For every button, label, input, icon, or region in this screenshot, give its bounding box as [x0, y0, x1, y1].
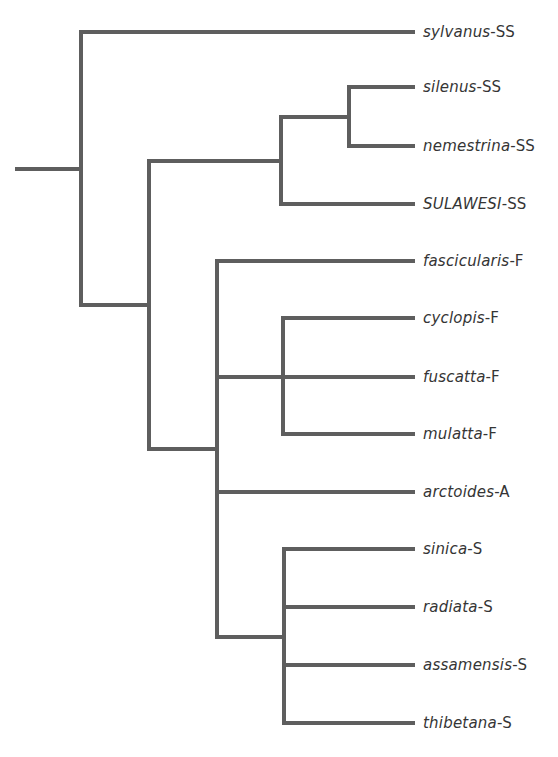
group-suffix: -F: [483, 425, 497, 443]
species-name: sinica: [423, 540, 467, 558]
ss-clade-node-vertical: [279, 115, 283, 206]
silenus-nemestrina-node-vertical: [347, 85, 351, 148]
species-name: assamensis: [423, 656, 512, 674]
branch-sinica: [282, 547, 415, 551]
group-suffix: -S: [478, 598, 493, 616]
group-suffix: -SS: [477, 78, 501, 96]
leaf-label-sinica: sinica-S: [423, 540, 482, 558]
phylogenetic-tree: sylvanus-SS silenus-SS nemestrina-SS SUL…: [0, 0, 558, 757]
species-name: fascicularis: [423, 252, 509, 270]
branch-silenus: [347, 85, 415, 89]
s-clade-node-vertical: [282, 547, 286, 725]
species-name: cyclopis: [423, 309, 485, 327]
group-suffix: -SS: [490, 23, 514, 41]
group-suffix: -F: [485, 309, 499, 327]
branch-sylvanus: [79, 30, 415, 34]
species-name: radiata: [423, 598, 478, 616]
branch-thibetana: [282, 721, 415, 725]
branch-fascicularis: [215, 259, 415, 263]
leaf-label-cyclopis: cyclopis-F: [423, 309, 499, 327]
group-suffix: -S: [497, 714, 512, 732]
species-name: mulatta: [423, 425, 483, 443]
group-suffix: -SS: [510, 137, 534, 155]
group-suffix: -F: [486, 368, 500, 386]
species-name: fuscatta: [423, 368, 486, 386]
branch-radiata: [282, 605, 415, 609]
branch-cyclopis: [281, 316, 415, 320]
branch-assamensis: [282, 663, 415, 667]
species-name: thibetana: [423, 714, 497, 732]
group-suffix: -A: [494, 483, 509, 501]
group-suffix: -S: [512, 656, 527, 674]
leaf-label-thibetana: thibetana-S: [423, 714, 512, 732]
branch-fuscatta: [215, 375, 415, 379]
leaf-label-radiata: radiata-S: [423, 598, 493, 616]
leaf-label-sulawesi: SULAWESI-SS: [423, 195, 526, 213]
branch-fas-clade: [147, 447, 219, 451]
group-suffix: -S: [467, 540, 482, 558]
leaf-label-sylvanus: sylvanus-SS: [423, 23, 515, 41]
branch-silenus-nemestrina: [279, 115, 351, 119]
root-stem: [15, 167, 83, 171]
ingroup-node-vertical: [147, 159, 151, 451]
branch-sulawesi: [279, 202, 415, 206]
group-suffix: -F: [509, 252, 523, 270]
leaf-label-nemestrina: nemestrina-SS: [423, 137, 535, 155]
branch-nemestrina: [347, 144, 415, 148]
species-name: SULAWESI: [423, 195, 502, 213]
leaf-label-fascicularis: fascicularis-F: [423, 252, 523, 270]
leaf-label-arctoides: arctoides-A: [423, 483, 510, 501]
branch-s-clade: [215, 635, 286, 639]
species-name: arctoides: [423, 483, 494, 501]
species-name: nemestrina: [423, 137, 510, 155]
branch-ss-clade: [147, 159, 283, 163]
leaf-label-fuscatta: fuscatta-F: [423, 368, 500, 386]
fas-clade-node-vertical: [215, 259, 219, 639]
cyclopis-mulatta-node-vertical: [281, 316, 285, 436]
branch-ingroup: [79, 303, 151, 307]
root-node-vertical: [79, 30, 83, 307]
leaf-label-assamensis: assamensis-S: [423, 656, 527, 674]
leaf-label-silenus: silenus-SS: [423, 78, 501, 96]
group-suffix: -SS: [502, 195, 526, 213]
leaf-label-mulatta: mulatta-F: [423, 425, 497, 443]
species-name: silenus: [423, 78, 477, 96]
branch-mulatta: [281, 432, 415, 436]
branch-arctoides: [215, 490, 415, 494]
species-name: sylvanus: [423, 23, 490, 41]
